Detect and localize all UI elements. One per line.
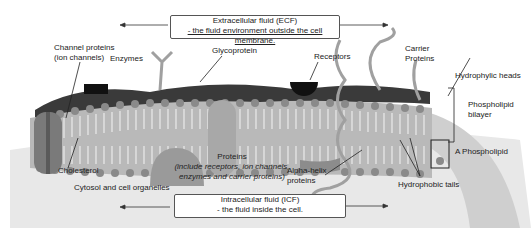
icf-title: Intracellular fluid (ICF) [175,195,345,205]
icf-description: - the fluid inside the cell. [175,205,345,215]
ecf-label-box: Extracellular fluid (ECF) - the fluid en… [170,15,340,39]
label-cholesterol: Cholesterol [58,166,98,176]
label-hydrophylic-heads: Hydrophylic heads [455,71,521,81]
ecf-title: Extracellular fluid (ECF) [171,16,339,26]
label-enzymes: Enzymes [110,54,143,64]
label-proteins: Proteins (include receptors, ion channel… [162,152,302,182]
cell-membrane-diagram: Extracellular fluid (ECF) - the fluid en… [0,0,531,228]
label-carrier-proteins: Carrier Proteins [405,44,434,64]
label-receptors: Receptors [314,52,350,62]
label-channel-proteins: Channel proteins (ion channels) [54,43,114,63]
glycoprotein [152,52,172,90]
label-a-phospholipid: A Phospholipid [455,147,508,157]
icf-label-box: Intracellular fluid (ICF) - the fluid in… [174,194,346,218]
enzyme [84,84,108,94]
label-alpha-helix-proteins: Alpha-helix proteins [287,166,327,186]
ecf-description: - the fluid environment outside the cell… [171,26,339,46]
label-hydrophobic-tails: Hydrophobic tails [398,180,459,190]
label-cytosol: Cytosol and cell organelles [74,183,170,193]
label-glycoprotein: Glycoprotein [212,46,257,56]
label-phospholipid-bilayer: Phospholipid bilayer [468,100,514,120]
